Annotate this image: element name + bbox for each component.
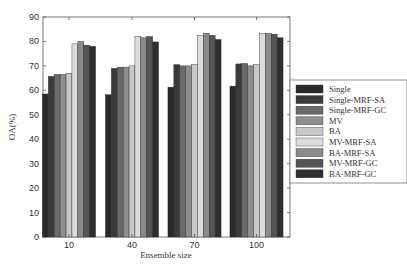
bar-mv-10 xyxy=(60,74,66,237)
x-tick-label: 10 xyxy=(64,240,74,250)
bar-ba-100 xyxy=(254,65,260,237)
legend-label: Single-MRF-GC xyxy=(329,105,386,115)
bar-single-mrf-gc-40 xyxy=(117,67,123,237)
bar-mv-mrf-sa-10 xyxy=(72,44,78,237)
legend-swatch xyxy=(296,159,323,167)
legend-label: Single-MRF-SA xyxy=(329,95,386,105)
bar-ba-mrf-gc-100 xyxy=(277,38,283,237)
bar-single-70 xyxy=(168,87,174,237)
legend-label: MV-MRF-SA xyxy=(329,137,377,147)
legend-swatch xyxy=(296,170,323,178)
bar-single-40 xyxy=(105,95,111,237)
bar-mv-mrf-gc-10 xyxy=(84,45,90,237)
legend-swatch xyxy=(296,96,323,104)
bar-ba-mrf-sa-70 xyxy=(203,33,209,237)
legend-label: BA xyxy=(329,126,342,136)
x-tick-label: 40 xyxy=(127,240,137,250)
bar-ba-mrf-gc-10 xyxy=(90,46,96,237)
legend-swatch xyxy=(296,138,323,146)
bar-ba-mrf-sa-40 xyxy=(141,38,147,237)
y-tick-label: 60 xyxy=(29,85,39,95)
bar-ba-mrf-sa-10 xyxy=(78,41,84,237)
bar-ba-10 xyxy=(66,73,72,237)
bar-single-mrf-gc-70 xyxy=(180,66,186,237)
bar-mv-mrf-gc-40 xyxy=(147,37,153,237)
bar-mv-70 xyxy=(186,66,192,237)
bar-single-10 xyxy=(42,94,48,237)
bar-mv-mrf-sa-40 xyxy=(135,37,141,237)
legend-swatch xyxy=(296,117,323,125)
bar-ba-70 xyxy=(192,65,198,237)
bar-single-mrf-sa-40 xyxy=(111,68,117,237)
y-tick-label: 50 xyxy=(29,110,39,120)
bar-ba-40 xyxy=(129,66,135,237)
bar-chart: 0102030405060708090 104070100 OA(%) Ense… xyxy=(0,0,407,271)
bar-mv-mrf-sa-70 xyxy=(197,35,203,237)
legend-label: Single xyxy=(329,84,351,94)
legend-swatch xyxy=(296,149,323,157)
legend-swatch xyxy=(296,85,323,93)
y-tick-label: 90 xyxy=(29,12,39,22)
legend-swatch xyxy=(296,127,323,135)
bar-ba-mrf-gc-40 xyxy=(153,42,159,237)
x-axis-label: Ensemble size xyxy=(140,250,192,260)
bar-single-100 xyxy=(230,86,236,237)
bar-mv-mrf-gc-70 xyxy=(209,35,215,237)
y-tick-label: 70 xyxy=(29,61,39,71)
legend-label: MV xyxy=(329,116,344,126)
x-tick-label: 100 xyxy=(249,240,264,250)
y-tick-label: 0 xyxy=(34,232,39,242)
bar-mv-100 xyxy=(248,66,254,237)
bar-mv-40 xyxy=(123,67,129,237)
bar-single-mrf-gc-100 xyxy=(242,63,248,237)
bar-mv-mrf-sa-100 xyxy=(259,34,265,237)
legend-label: BA-MRF-GC xyxy=(329,169,377,179)
bar-single-mrf-sa-100 xyxy=(236,64,242,237)
y-tick-label: 30 xyxy=(29,159,39,169)
y-tick-label: 40 xyxy=(29,134,39,144)
legend-label: MV-MRF-GC xyxy=(329,158,378,168)
bar-ba-mrf-gc-70 xyxy=(215,39,221,237)
legend: SingleSingle-MRF-SASingle-MRF-GCMVBAMV-M… xyxy=(290,80,407,183)
y-tick-label: 10 xyxy=(29,208,39,218)
x-tick-label: 70 xyxy=(189,240,199,250)
bar-mv-mrf-gc-100 xyxy=(271,34,277,237)
y-axis-label: OA(%) xyxy=(7,114,17,141)
legend-label: BA-MRF-SA xyxy=(329,148,376,158)
legend-swatch xyxy=(296,106,323,114)
bar-single-mrf-sa-10 xyxy=(48,76,54,237)
bar-ba-mrf-sa-100 xyxy=(265,33,271,237)
bar-single-mrf-sa-70 xyxy=(174,65,180,237)
y-tick-label: 20 xyxy=(29,183,39,193)
y-tick-label: 80 xyxy=(29,36,39,46)
bar-single-mrf-gc-10 xyxy=(54,74,60,237)
